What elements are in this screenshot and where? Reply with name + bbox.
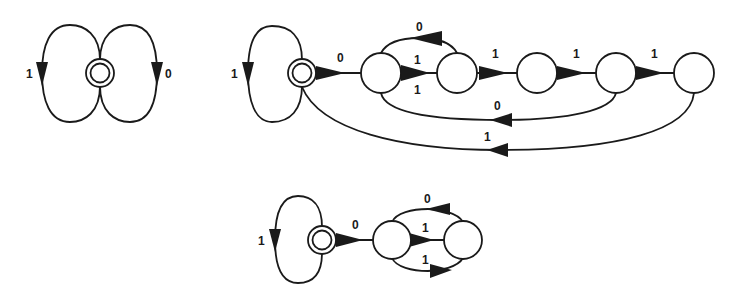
self-loop-label: 1 <box>258 234 265 248</box>
edge-label-s4-s5: 1 <box>651 47 658 61</box>
arrow-right-icon <box>401 65 430 81</box>
accept-state-inner <box>91 64 110 83</box>
arrow-down-icon <box>242 62 254 86</box>
back-edge-label-1: 1 <box>484 130 491 144</box>
edge-label-s1-s2-above: 1 <box>414 53 421 67</box>
self-loop-label: 1 <box>231 67 238 81</box>
arrow-right-icon <box>409 233 434 247</box>
accept-state-inner <box>313 231 332 250</box>
edge-label-s1-s2-below: 1 <box>414 83 421 97</box>
state-s5 <box>674 53 714 93</box>
state-s2 <box>444 221 482 259</box>
edge-label-start-s1: 0 <box>337 51 344 65</box>
state-s3 <box>517 53 557 93</box>
automaton-2: 1 1 0 0 0 1 1 1 1 1 <box>231 20 714 157</box>
arrow-right-icon <box>636 66 664 80</box>
loop-label-right: 0 <box>165 67 172 81</box>
state-s4 <box>596 53 636 93</box>
arrow-right-icon <box>479 66 508 80</box>
arrow-right-icon <box>336 233 363 247</box>
edge-label-s1-s2-middle: 1 <box>422 221 429 235</box>
arrow-down-icon <box>36 62 48 86</box>
edge-label-s1-s2-bottom: 1 <box>422 253 429 267</box>
arrow-down-icon <box>269 229 281 252</box>
arrow-left-icon <box>490 113 512 127</box>
state-s1 <box>373 221 411 259</box>
state-s1 <box>361 53 401 93</box>
loop-label-left: 1 <box>26 67 33 81</box>
state-s2 <box>437 53 477 93</box>
arrow-down-icon <box>151 62 163 86</box>
edge-label-s2-s3: 1 <box>492 47 499 61</box>
arrow-right-icon <box>430 264 452 278</box>
automaton-3: 1 0 0 1 1 <box>258 192 482 283</box>
edge-label-s2-s1: 0 <box>416 20 423 34</box>
edge-label-s2-s1: 0 <box>424 192 431 206</box>
automaton-1: 1 0 <box>26 25 172 122</box>
edge-label-start-s1: 0 <box>352 218 359 232</box>
arrow-right-icon <box>557 66 586 80</box>
arrow-left-icon <box>410 31 442 46</box>
edge-label-s3-s4: 1 <box>573 47 580 61</box>
arrow-right-icon <box>316 66 345 80</box>
arrow-left-icon <box>487 143 508 157</box>
state-diagram-canvas: 1 0 1 1 0 0 0 1 1 <box>0 0 731 300</box>
back-edge-label-0: 0 <box>494 99 501 113</box>
accept-state-inner <box>293 64 312 83</box>
